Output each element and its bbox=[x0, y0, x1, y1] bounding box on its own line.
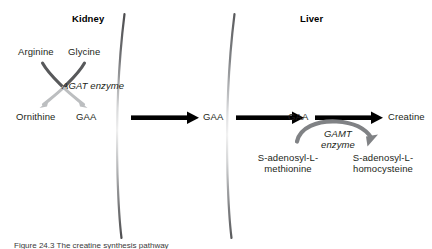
kidney-blood-membrane bbox=[117, 14, 124, 238]
kidney-title: Kidney bbox=[72, 14, 104, 25]
label-gaa-blood: GAA bbox=[203, 112, 223, 123]
label-glycine: Glycine bbox=[68, 47, 100, 58]
liver-title: Liver bbox=[300, 14, 323, 25]
arrow-gaa-to-creatine bbox=[315, 111, 383, 124]
label-ornithine: Ornithine bbox=[16, 112, 55, 123]
diagram-graphics-layer bbox=[0, 0, 432, 249]
label-gaa-kidney: GAA bbox=[76, 112, 96, 123]
blood-liver-membrane bbox=[227, 14, 234, 238]
label-creatine: Creatine bbox=[388, 112, 425, 123]
label-sah: S-adenosyl-L-homocysteine bbox=[340, 152, 426, 174]
label-agat-enzyme: AGAT enzyme bbox=[62, 81, 124, 92]
label-sam: S-adenosyl-L-methionine bbox=[245, 152, 331, 174]
label-gamt-enzyme-line1: GAMT bbox=[314, 129, 362, 140]
label-gamt-enzyme-line2: enzyme bbox=[314, 140, 362, 151]
figure-caption: Figure 24.3 The creatine synthesis pathw… bbox=[14, 241, 169, 249]
label-arginine: Arginine bbox=[18, 47, 54, 58]
label-gaa-liver: GAA bbox=[288, 112, 308, 123]
creatine-synthesis-figure: Kidney Liver Arginine Glycine Ornithine … bbox=[0, 0, 432, 249]
arrow-kidney-to-blood bbox=[131, 111, 199, 124]
